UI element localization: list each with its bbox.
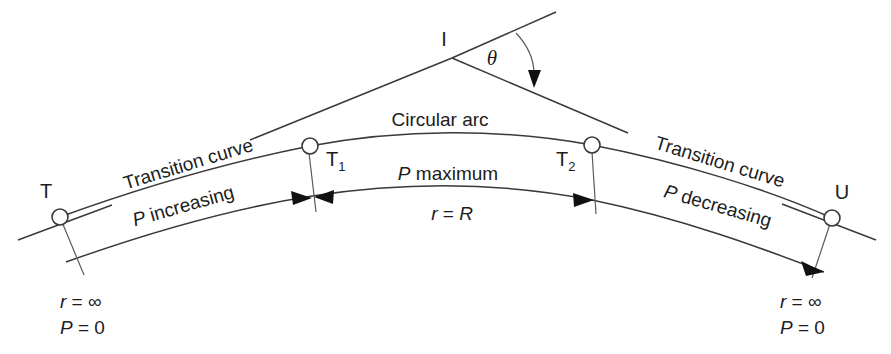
increasing-word: increasing bbox=[147, 181, 236, 225]
maximum-word: maximum bbox=[416, 163, 498, 184]
R-symbol-arc: R bbox=[459, 203, 473, 224]
label-transition-curve-left: Transition curve bbox=[121, 134, 256, 193]
left-equals-infinity: = ∞ bbox=[72, 291, 102, 312]
radial-line-T2 bbox=[592, 152, 596, 214]
radial-line-T bbox=[62, 222, 84, 275]
right-equals-zero: = 0 bbox=[798, 317, 825, 338]
label-left-radius-infinity: r = ∞ bbox=[60, 291, 102, 312]
p-symbol-right: P bbox=[780, 317, 793, 338]
t1-base: T bbox=[326, 148, 338, 170]
label-p-maximum: P maximum bbox=[398, 163, 498, 184]
p-decreasing-arrow-head bbox=[801, 261, 824, 276]
upper-right-tangent-line bbox=[452, 12, 556, 58]
label-theta-angle: θ bbox=[487, 46, 497, 70]
node-circle-T1 bbox=[302, 138, 318, 154]
node-circle-T2 bbox=[584, 137, 600, 153]
label-right-pressure-zero: P = 0 bbox=[780, 317, 825, 338]
p-symbol-maximum: P bbox=[398, 163, 411, 184]
label-circular-arc: Circular arc bbox=[391, 109, 488, 130]
node-circle-T bbox=[52, 209, 68, 225]
label-point-T1: T1 bbox=[326, 148, 345, 174]
left-equals-zero: = 0 bbox=[78, 317, 105, 338]
p-symbol-left: P bbox=[60, 317, 73, 338]
theta-arrow-head bbox=[528, 70, 541, 88]
label-point-T2: T2 bbox=[556, 148, 575, 174]
r-equals-R-right-arrow-head bbox=[573, 193, 594, 207]
label-radius-equals-R: r = R bbox=[431, 203, 473, 224]
label-point-T: T bbox=[40, 180, 52, 202]
t2-subscript: 2 bbox=[568, 159, 575, 174]
label-p-decreasing: P decreasing bbox=[662, 180, 774, 231]
t1-subscript: 1 bbox=[338, 159, 345, 174]
r-equals-R-left-arrow-head bbox=[314, 190, 334, 204]
p-increasing-arrow-head bbox=[291, 191, 312, 205]
right-equals-infinity: = ∞ bbox=[792, 291, 822, 312]
label-intersection-point-I: I bbox=[441, 28, 447, 50]
label-left-pressure-zero: P = 0 bbox=[60, 317, 105, 338]
node-circle-U bbox=[824, 210, 840, 226]
label-point-U: U bbox=[835, 181, 849, 203]
decreasing-word: decreasing bbox=[679, 185, 774, 231]
diagram-canvas: I θ Circular arc Transition curve Transi… bbox=[0, 0, 891, 354]
radial-line-T1 bbox=[309, 153, 316, 212]
t2-base: T bbox=[556, 148, 568, 170]
theta-angle-arc bbox=[516, 33, 534, 74]
transition-curve-diagram: I θ Circular arc Transition curve Transi… bbox=[0, 0, 891, 354]
label-right-radius-infinity: r = ∞ bbox=[780, 291, 822, 312]
